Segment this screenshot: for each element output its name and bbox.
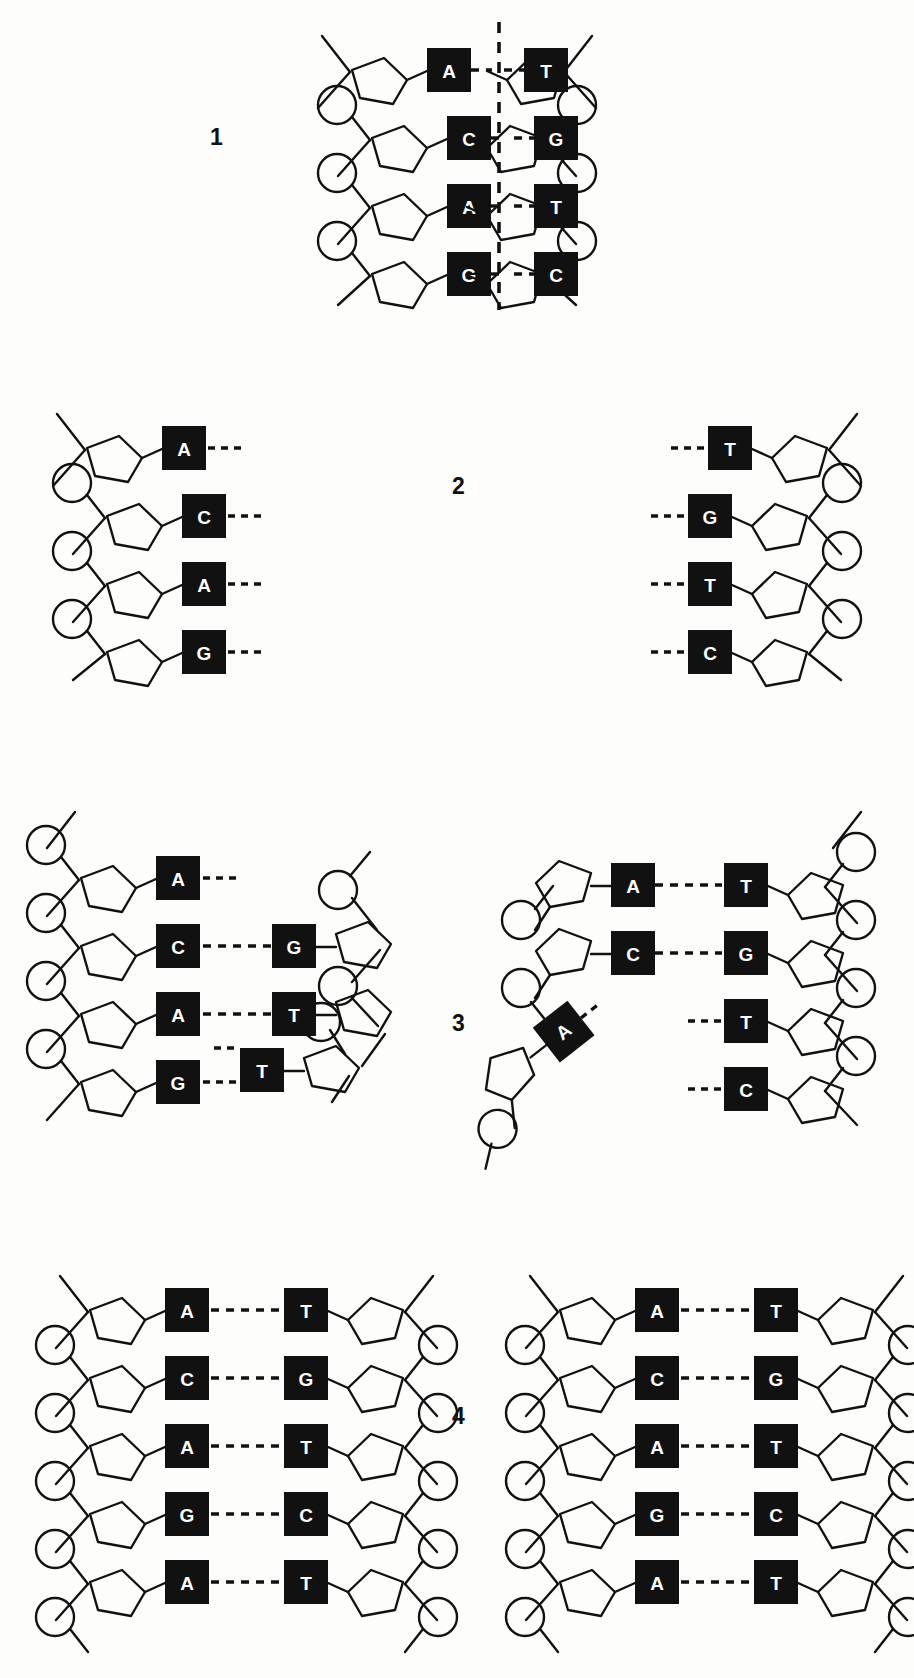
base-letter: A [442,61,456,82]
base-letter: T [770,1301,782,1322]
base-letter: G [287,937,302,958]
base-letter: G [650,1505,665,1526]
base-letter: A [650,1437,664,1458]
base-letter: C [650,1369,664,1390]
base-letter: A [171,1005,185,1026]
base-letter: C [180,1369,194,1390]
base-letter: T [288,1005,300,1026]
dna-replication-figure: 1 [0,0,914,1678]
base-letter: T [300,1573,312,1594]
base-letter: T [740,1012,752,1033]
base-letter: A [180,1573,194,1594]
panel4-right-helix: A C A G A T G T C [506,1276,914,1652]
base-letter: T [770,1573,782,1594]
base-letter: C [197,507,211,528]
panel2-right-strand: T G T C [651,414,861,686]
panel-1-graphic: A C A G [0,0,914,330]
base-letter: G [549,129,564,150]
base-letter: G [769,1369,784,1390]
base-letter: T [540,61,552,82]
panel-4: 4 [0,1250,914,1678]
base-letter: T [740,876,752,897]
base-letter: T [724,439,736,460]
panel-3: 3 [0,790,914,1160]
base-letter: A [180,1437,194,1458]
base-letter: G [171,1073,186,1094]
base-letter: C [769,1505,783,1526]
panel-2: 2 [0,390,914,670]
panel-1-number: 1 [210,126,223,149]
panel-3-number: 3 [452,1012,465,1035]
panel3-left-template-strand: A C A G [27,812,272,1120]
panel2-left-strand: A C A G [53,414,263,686]
base-letter: A [171,869,185,890]
base-letter: G [739,944,754,965]
base-letter: A [197,575,211,596]
panel-1: 1 [0,0,914,330]
base-letter: G [180,1505,195,1526]
base-letter: A [650,1301,664,1322]
base-letter: A [650,1573,664,1594]
panel3-right-new-strand: A C [502,861,655,1022]
base-letter: T [256,1061,268,1082]
base-letter: T [300,1437,312,1458]
base-letter: C [549,265,563,286]
base-letter: T [550,197,562,218]
panel1-left-strand: A C A G [318,36,491,308]
base-letter: A [177,439,191,460]
panel4-left-helix: A C A G A T G T [36,1276,457,1652]
base-letter: G [703,507,718,528]
panel-4-graphic: A C A G A T G T [0,1250,914,1678]
base-letter: C [703,643,717,664]
panel-2-number: 2 [452,475,465,498]
base-letter: T [300,1301,312,1322]
base-letter: C [171,937,185,958]
base-letter: C [739,1080,753,1101]
panel-4-number: 4 [452,1405,465,1428]
base-letter: G [299,1369,314,1390]
base-letter: T [704,575,716,596]
panel3-right-template-strand: T G T C [655,812,875,1125]
base-letter: C [299,1505,313,1526]
base-letter: G [197,643,212,664]
base-letter: A [626,876,640,897]
panel-3-graphic: A C A G G T [0,790,914,1160]
base-letter: C [626,944,640,965]
base-letter: A [180,1301,194,1322]
base-letter: T [770,1437,782,1458]
panel-2-graphic: A C A G [0,390,914,670]
